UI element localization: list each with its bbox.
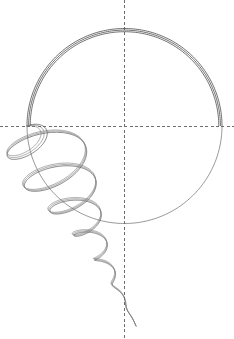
spiral-strand-secondary <box>7 125 136 326</box>
spiral-strand-primary <box>7 124 136 326</box>
spiral-group <box>7 124 136 326</box>
figure-canvas <box>0 0 234 339</box>
geometry-figure-svg <box>0 0 234 339</box>
spiral-strand-tertiary <box>7 126 136 326</box>
